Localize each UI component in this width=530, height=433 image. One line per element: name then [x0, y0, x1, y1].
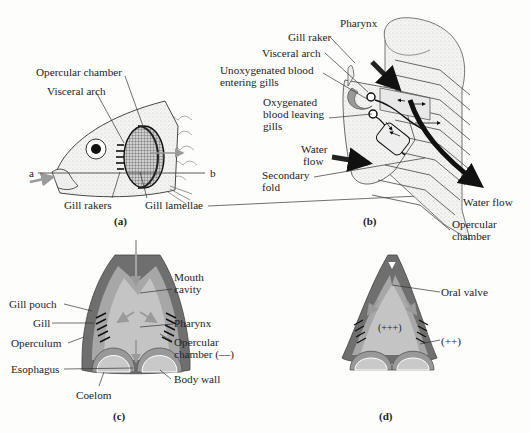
label-opercular-chamber-a: Opercular chamber: [36, 66, 122, 78]
label-water-flow-out: Water flow: [463, 196, 513, 208]
label-oxygenated-blood-2: blood leaving: [263, 108, 324, 120]
label-esophagus: Esophagus: [11, 363, 59, 375]
label-coelom: Coelom: [76, 389, 111, 401]
caption-c: (c): [113, 410, 125, 422]
caption-d: (d): [379, 410, 392, 422]
label-pressure-mid: (++): [441, 335, 461, 347]
label-unoxygenated-blood-2: entering gills: [220, 76, 279, 88]
label-opercular-chamber-b-2: chamber: [452, 230, 491, 242]
label-gill-pouch: Gill pouch: [9, 298, 57, 310]
label-mouth-cavity: Mouth: [174, 271, 204, 283]
label-water-flow-in-2: flow: [303, 155, 324, 167]
label-pharynx-c: Pharynx: [174, 317, 211, 329]
label-mouth-cavity-2: cavity: [174, 283, 201, 295]
label-body-wall: Body wall: [174, 373, 220, 385]
label-oxygenated-blood-3: gills: [263, 120, 282, 132]
label-secondary-fold-2: fold: [262, 181, 280, 193]
label-visceral-arch-b: Visceral arch: [262, 47, 321, 59]
label-operculum: Operculum: [11, 337, 61, 349]
label-opercular-chamber-c-2: chamber (––): [174, 348, 234, 360]
marker-a: a: [29, 167, 34, 179]
pharynx-section-c: [52, 240, 190, 386]
label-gill: Gill: [33, 317, 50, 329]
label-opercular-chamber-c: Opercular: [174, 336, 219, 348]
label-gill-rakers: Gill rakers: [64, 199, 112, 211]
caption-b: (b): [363, 215, 376, 227]
label-gill-raker: Gill raker: [288, 31, 331, 43]
label-opercular-chamber-b: Opercular: [452, 218, 497, 230]
label-gill-lamellae: Gill lamellae: [145, 199, 203, 211]
label-secondary-fold: Secondary: [262, 169, 309, 181]
caption-a: (a): [114, 215, 127, 227]
label-unoxygenated-blood: Unoxygenated blood: [220, 64, 314, 76]
label-visceral-arch-a: Visceral arch: [47, 85, 106, 97]
label-oxygenated-blood: Oxygenated: [263, 96, 317, 108]
label-water-flow-in: Water: [301, 143, 327, 155]
pharynx-section-d: [342, 255, 440, 370]
label-pressure-high: (+++): [378, 322, 402, 334]
label-oral-valve: Oral valve: [441, 286, 488, 298]
label-pharynx-b: Pharynx: [340, 17, 377, 29]
gill-arch-illustration: [314, 18, 480, 240]
marker-b: b: [210, 167, 216, 179]
